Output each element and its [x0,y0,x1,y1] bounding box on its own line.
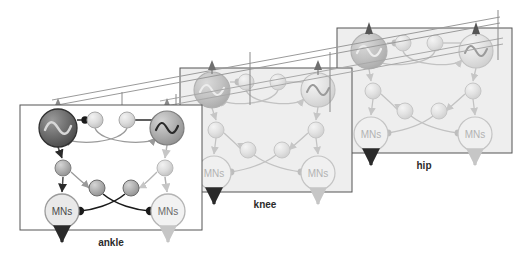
hip-interneuron-top-right[interactable] [427,35,443,51]
ankle-interneuron-top-right[interactable] [119,112,135,128]
ankle-relay-left-to-mns-left [62,177,63,192]
hip-relay-left[interactable] [365,83,381,99]
ankle-interneuron-mid-left[interactable] [89,180,105,196]
hip-mns-left-label: MNs [361,129,382,140]
knee-mns-left-label: MNs [204,168,225,179]
rail-arrow-knee-left [208,60,216,70]
knee-mns-right-label: MNs [308,168,329,179]
knee-relay-right[interactable] [308,122,324,138]
ankle-mns-right-label: MNs [158,206,179,217]
module-knee-label: knee [254,199,277,210]
rail-arrow-knee-right [314,60,322,70]
knee-interneuron-top-left[interactable] [238,74,254,90]
ankle-relay-left[interactable] [55,160,71,176]
ankle-relay-right[interactable] [157,160,173,176]
hip-interneuron-mid-right[interactable] [431,103,447,119]
module-ankle[interactable]: MNs MNs ankle [20,105,202,248]
hip-relay-right[interactable] [465,83,481,99]
knee-interneuron-top-right[interactable] [270,74,286,90]
module-knee[interactable]: MNs MNs knee [180,68,352,210]
hip-interneuron-mid-left[interactable] [397,103,413,119]
module-ankle-label: ankle [98,237,124,248]
cpg-network-diagram: MNs MNs hip [0,0,526,265]
ankle-interneuron-mid-right[interactable] [123,180,139,196]
ankle-mns-left-label: MNs [52,206,73,217]
hip-interneuron-top-left[interactable] [395,35,411,51]
knee-relay-left[interactable] [208,122,224,138]
ankle-interneuron-top-left[interactable] [87,112,103,128]
hip-mns-right-label: MNs [465,129,486,140]
diagram-canvas: MNs MNs hip [0,0,526,265]
knee-interneuron-mid-left[interactable] [240,142,256,158]
knee-interneuron-mid-right[interactable] [274,142,290,158]
module-hip-label: hip [417,160,432,171]
module-hip[interactable]: MNs MNs hip [337,28,512,171]
